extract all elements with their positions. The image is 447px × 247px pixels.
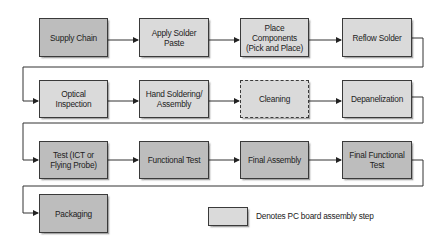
step-final-assembly: Final Assembly (240, 141, 309, 179)
step-hand-soldering: Hand Soldering/ Assembly (139, 80, 209, 118)
step-supply-chain: Supply Chain (39, 18, 108, 57)
step-functional-test: Functional Test (139, 141, 209, 179)
step-depanelization: Depanelization (342, 80, 412, 118)
legend-label: Denotes PC board assembly step (256, 211, 374, 221)
step-optical-inspection: Optical Inspection (39, 80, 108, 118)
step-place-components: Place Components (Pick and Place) (240, 18, 309, 57)
flowchart-canvas: Supply Chain Apply Solder Paste Place Co… (0, 0, 447, 247)
step-test-ict: Test (ICT or Flying Probe) (39, 141, 108, 179)
step-packaging: Packaging (39, 194, 108, 233)
legend-swatch (208, 207, 248, 226)
step-cleaning: Cleaning (240, 80, 309, 118)
step-apply-solder-paste: Apply Solder Paste (139, 18, 209, 57)
step-reflow-solder: Reflow Solder (342, 18, 412, 57)
step-final-functional-test: Final Functional Test (342, 141, 412, 179)
